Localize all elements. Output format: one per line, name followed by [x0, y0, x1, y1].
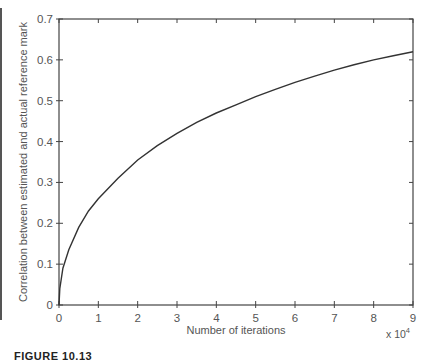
x-tick-label: 7 — [331, 312, 337, 324]
x-tick-label: 3 — [174, 312, 180, 324]
x-tick-label: 1 — [95, 312, 101, 324]
y-tick-label: 0.4 — [37, 136, 54, 148]
correlation-curve — [59, 52, 413, 305]
x-axis-multiplier: x 104 — [386, 326, 410, 340]
y-tick-label: 0.5 — [37, 95, 53, 107]
x-tick-label: 2 — [134, 312, 140, 324]
y-tick-label: 0.6 — [37, 54, 53, 66]
y-tick-label: 0 — [47, 299, 53, 311]
x-tick-label: 8 — [370, 312, 376, 324]
x-tick-label: 0 — [56, 312, 62, 324]
x-axis-label: Number of iterations — [186, 324, 286, 336]
x-tick-label: 5 — [252, 312, 258, 324]
y-tick-label: 0.1 — [37, 258, 53, 270]
plot-frame — [59, 19, 413, 305]
y-tick-label: 0.2 — [37, 217, 53, 229]
plot-area-border — [59, 19, 413, 305]
x-tick-label: 4 — [213, 312, 220, 324]
x-tick-label: 6 — [292, 312, 298, 324]
y-tick-label: 0.7 — [37, 13, 53, 25]
x-axis-ticks: 0123456789 — [56, 19, 416, 324]
y-tick-label: 0.3 — [37, 176, 53, 188]
y-axis-label: Correlation between estimated and actual… — [17, 21, 29, 302]
x-tick-label: 9 — [410, 312, 416, 324]
y-axis-ticks: 00.10.20.30.40.50.60.7 — [37, 13, 413, 311]
figure-caption: FIGURE 10.13 — [14, 350, 92, 362]
